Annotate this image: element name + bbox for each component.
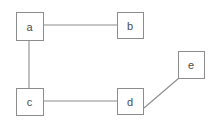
node-layer: a b c d e	[17, 13, 205, 116]
node-b-label: b	[127, 20, 133, 32]
node-c-label: c	[27, 96, 33, 108]
node-e-label: e	[188, 59, 194, 71]
node-b[interactable]: b	[118, 13, 144, 39]
node-a-label: a	[26, 21, 33, 33]
node-d[interactable]: d	[118, 89, 144, 115]
edge-d-e	[144, 78, 179, 108]
node-c[interactable]: c	[17, 89, 44, 116]
node-e[interactable]: e	[179, 52, 205, 79]
node-d-label: d	[127, 96, 133, 108]
node-a[interactable]: a	[17, 13, 44, 41]
diagram-canvas: a b c d e	[0, 0, 220, 124]
graph-svg: a b c d e	[0, 0, 220, 124]
edge-layer	[29, 25, 179, 108]
